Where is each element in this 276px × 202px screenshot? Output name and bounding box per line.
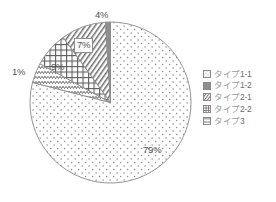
legend-item[interactable]: タイプ2-2 (203, 103, 276, 115)
legend-item[interactable]: タイプ2-1 (203, 92, 276, 104)
legend-swatch-diagonal-stripes-icon (203, 93, 211, 101)
slice-label-type2-1: 9% (51, 62, 64, 72)
slice-label-type1-2: 1% (12, 67, 25, 77)
legend-swatch-dots-icon (203, 70, 211, 78)
legend-item[interactable]: タイプ3 (203, 115, 276, 127)
legend-swatch-cross-hatch-icon (203, 105, 211, 113)
legend-swatch-solid-dark-icon (203, 82, 211, 90)
legend-item-label: タイプ2-2 (214, 105, 252, 114)
legend-item[interactable]: タイプ1-1 (203, 68, 276, 80)
chart-legend: タイプ1-1タイプ1-2タイプ2-1タイプ2-2タイプ3 (203, 68, 276, 127)
legend-item-label: タイプ2-1 (214, 93, 252, 102)
legend-swatch-wavy-icon (203, 117, 211, 125)
slice-label-type1-1: 79% (143, 145, 161, 155)
legend-item-label: タイプ3 (214, 117, 245, 126)
slice-label-type3: 4% (95, 10, 108, 20)
slice-label-type2-2: 7% (74, 38, 93, 53)
legend-item[interactable]: タイプ1-2 (203, 80, 276, 92)
legend-item-label: タイプ1-1 (214, 70, 252, 79)
pie-chart-figure: 4% 7% 9% 1% 79% タイプ1-1タイプ1-2タイプ2-1タイプ2-2… (0, 0, 276, 202)
pie-slices-group (30, 22, 191, 183)
legend-item-label: タイプ1-2 (214, 81, 252, 90)
